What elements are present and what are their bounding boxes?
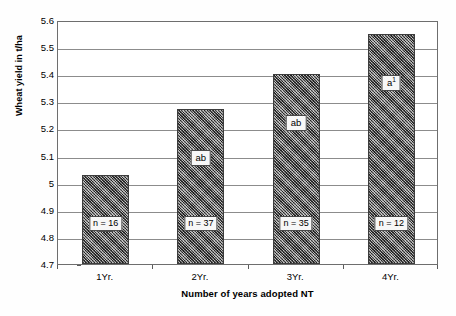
y-axis-tick-label: 5.2 <box>22 124 54 134</box>
y-axis-tick-label: 5.1 <box>22 152 54 162</box>
y-axis-tick-label-group: 5.65.55.45.35.25.154.94.84.7 <box>22 21 54 265</box>
bar: abn = 35 <box>273 74 320 264</box>
x-axis-tick-label-group: 1Yr.2Yr.3Yr.4Yr. <box>57 271 438 285</box>
y-axis-tick-label: 5.5 <box>22 43 54 53</box>
x-axis-tick-label: 1Yr. <box>70 271 140 283</box>
x-axis-tick-mark <box>248 265 249 269</box>
bar-chart-figure: Wheat yield in t/ha 5.65.55.45.35.25.154… <box>0 0 456 316</box>
y-axis-tick-label: 4.8 <box>22 233 54 243</box>
x-axis-tick-mark <box>343 265 344 269</box>
y-axis-tick-label: 5 <box>22 179 54 189</box>
x-axis-tick-mark <box>57 265 58 269</box>
bar-sample-size-label: n = 16 <box>89 216 122 231</box>
bar-sample-size-label: n = 35 <box>279 216 312 231</box>
bar: abn = 37 <box>177 109 224 264</box>
bar-significance-label: ab <box>191 150 212 166</box>
bar-significance-label: ab <box>286 115 307 131</box>
y-axis-tick-label: 5.3 <box>22 97 54 107</box>
y-axis-tick-label: 5.4 <box>22 70 54 80</box>
y-axis-tick-label: 5.6 <box>22 16 54 26</box>
y-axis-tick-label: 4.9 <box>22 206 54 216</box>
bar-significance-label: a1 <box>382 75 401 91</box>
bar-sample-size-label: n = 37 <box>184 216 217 231</box>
bar: a1n = 12 <box>368 34 415 264</box>
y-axis-tick-label: 4.7 <box>22 260 54 270</box>
bar: bn = 16 <box>82 175 129 264</box>
x-axis-title: Number of years adopted NT <box>57 288 438 299</box>
x-axis-tick-mark <box>437 265 438 269</box>
x-axis-tick-mark <box>152 265 153 269</box>
bar-sample-size-label: n = 12 <box>375 216 408 231</box>
x-axis-tick-label: 2Yr. <box>165 271 235 283</box>
x-axis-tick-label: 3Yr. <box>260 271 330 283</box>
plot-area: bn = 16abn = 37abn = 35a1n = 12 <box>57 21 438 265</box>
x-axis-tick-label: 4Yr. <box>355 271 425 283</box>
